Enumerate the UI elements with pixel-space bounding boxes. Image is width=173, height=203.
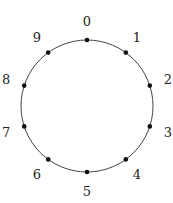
node-label-2: 2: [164, 72, 172, 87]
node-label-4: 4: [133, 167, 141, 182]
node-7: [22, 124, 27, 129]
node-8: [22, 83, 27, 88]
node-label-8: 8: [2, 72, 10, 87]
node-0: [85, 38, 90, 43]
node-label-3: 3: [164, 125, 172, 140]
node-1: [124, 50, 129, 55]
node-9: [46, 50, 51, 55]
node-label-7: 7: [2, 125, 10, 140]
node-label-0: 0: [83, 14, 91, 29]
ring: [21, 40, 153, 172]
node-label-9: 9: [33, 30, 41, 45]
node-4: [124, 157, 129, 162]
node-5: [85, 170, 90, 175]
node-label-5: 5: [83, 184, 91, 199]
node-2: [148, 83, 153, 88]
cycle-diagram: 0123456789: [0, 0, 173, 203]
node-label-1: 1: [133, 30, 141, 45]
node-6: [46, 157, 51, 162]
node-3: [148, 124, 153, 129]
node-label-6: 6: [33, 167, 41, 182]
